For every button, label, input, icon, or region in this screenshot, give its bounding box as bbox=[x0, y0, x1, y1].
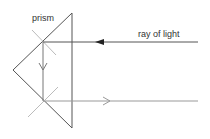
prism-reflection-diagram: prism ray of light bbox=[0, 0, 210, 139]
ray-label: ray of light bbox=[138, 29, 180, 39]
prism-label: prism bbox=[32, 13, 54, 23]
incoming-ray-arrowhead-icon bbox=[95, 39, 104, 45]
